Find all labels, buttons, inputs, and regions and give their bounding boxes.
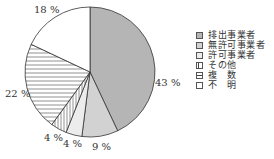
legend-label: その他 [208,60,237,70]
swatch-gray-icon [196,32,203,39]
label-22: 22 % [5,88,30,99]
legend-item: 許可事業者 [196,50,265,60]
legend-item: 複 数 [196,70,265,80]
label-43: 43 % [155,77,180,88]
label-4-permitted: 4 % [63,138,82,149]
swatch-light-gray-icon [196,42,203,49]
swatch-white-icon [196,82,203,89]
legend-label: 不 明 [208,80,237,90]
legend-label: 排出事業者 [208,30,256,40]
label-4-other: 4 % [44,132,63,143]
swatch-pale-gray-icon [196,52,203,59]
legend-label: 複 数 [208,70,237,80]
legend: 排出事業者 無許可事業者 許可事業者 その他 複 数 不 明 [196,30,265,90]
label-18: 18 % [34,4,59,15]
legend-item: 排出事業者 [196,30,265,40]
legend-item: 無許可事業者 [196,40,265,50]
swatch-vertical-stripes-icon [196,62,203,69]
legend-label: 無許可事業者 [208,40,265,50]
legend-item: その他 [196,60,265,70]
label-9: 9 % [92,141,111,152]
legend-item: 不 明 [196,80,265,90]
swatch-horizontal-stripes-icon [196,72,203,79]
legend-label: 許可事業者 [208,50,256,60]
